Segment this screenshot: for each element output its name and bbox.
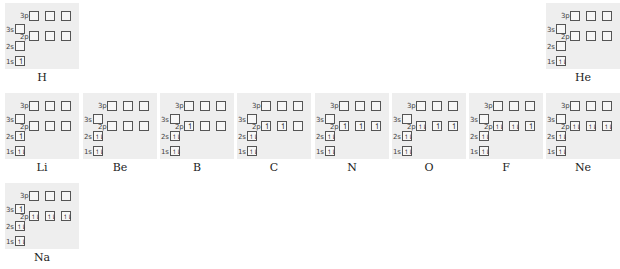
orbital-box-2s: ↿⇂	[15, 221, 25, 231]
orbital-panel: 3p3s2p↿↿2s↿⇂1s↿⇂	[237, 93, 311, 159]
orbital-box-2p: ↿⇂	[493, 121, 503, 131]
orbital-box-2s: ↿⇂	[325, 131, 335, 141]
paired-electrons-arrow-icon: ↿⇂	[249, 147, 257, 156]
orbital-box-3p	[200, 101, 210, 111]
orbital-box-2p: ↿⇂	[61, 211, 71, 221]
orbital-box-3p	[525, 101, 535, 111]
orbital-box-3p	[602, 101, 612, 111]
orbital-label-2s: 2s	[6, 43, 14, 51]
orbital-label-3p: 3p	[20, 12, 28, 20]
paired-electrons-arrow-icon: ↿⇂	[47, 212, 55, 221]
orbital-label-1s: 1s	[547, 58, 555, 66]
paired-electrons-arrow-icon: ↿⇂	[17, 147, 25, 156]
paired-electrons-arrow-icon: ↿⇂	[172, 147, 180, 156]
orbital-box-2p: ↿⇂	[45, 211, 55, 221]
element-symbol: He	[546, 71, 620, 84]
orbital-box-2p: ↿⇂	[509, 121, 519, 131]
orbital-label-3p: 3p	[252, 102, 260, 110]
orbital-box-2p: ↿⇂	[570, 121, 580, 131]
orbital-label-3s: 3s	[393, 116, 401, 124]
orbital-label-3s: 3s	[470, 116, 478, 124]
orbital-label-3p: 3p	[561, 102, 569, 110]
element-symbol: Na	[5, 251, 79, 264]
paired-electrons-arrow-icon: ↿⇂	[558, 57, 566, 66]
orbital-label-3p: 3p	[330, 102, 338, 110]
orbital-box-2p	[216, 121, 226, 131]
orbital-label-3s: 3s	[316, 116, 324, 124]
orbital-label-2p: 2p	[561, 33, 569, 41]
single-electron-arrow-icon: ↿	[280, 122, 286, 131]
orbital-box-3p	[45, 11, 55, 21]
orbital-box-1s: ↿⇂	[479, 146, 489, 156]
orbital-box-3p	[339, 101, 349, 111]
orbital-box-3p	[45, 101, 55, 111]
orbital-box-3p	[355, 101, 365, 111]
orbital-box-3p	[29, 11, 39, 21]
orbital-box-2p	[586, 31, 596, 41]
orbital-box-3p	[29, 191, 39, 201]
orbital-box-2p: ↿⇂	[29, 211, 39, 221]
orbital-label-2s: 2s	[84, 133, 92, 141]
element-symbol: F	[469, 161, 543, 174]
single-electron-arrow-icon: ↿	[528, 122, 534, 131]
orbital-label-1s: 1s	[84, 148, 92, 156]
orbital-panel: 3p3s2p2s1s↿⇂	[546, 3, 620, 69]
orbital-box-2s: ↿⇂	[402, 131, 412, 141]
orbital-label-2s: 2s	[6, 133, 14, 141]
paired-electrons-arrow-icon: ↿⇂	[558, 132, 566, 141]
orbital-label-1s: 1s	[6, 238, 14, 246]
paired-electrons-arrow-icon: ↿⇂	[95, 132, 103, 141]
orbital-box-3p	[416, 101, 426, 111]
element-symbol: H	[5, 71, 79, 84]
orbital-box-1s: ↿⇂	[402, 146, 412, 156]
paired-electrons-arrow-icon: ↿⇂	[558, 147, 566, 156]
orbital-box-1s: ↿⇂	[247, 146, 257, 156]
orbital-box-2s: ↿⇂	[247, 131, 257, 141]
orbital-label-2p: 2p	[98, 123, 106, 131]
orbital-label-2p: 2p	[407, 123, 415, 131]
paired-electrons-arrow-icon: ↿⇂	[31, 212, 39, 221]
orbital-box-2p	[107, 121, 117, 131]
orbital-label-3p: 3p	[175, 102, 183, 110]
element-symbol: B	[160, 161, 234, 174]
paired-electrons-arrow-icon: ↿⇂	[588, 122, 596, 131]
orbital-box-3p	[139, 101, 149, 111]
element-symbol: Be	[83, 161, 157, 174]
orbital-label-1s: 1s	[6, 148, 14, 156]
paired-electrons-arrow-icon: ↿⇂	[495, 122, 503, 131]
orbital-box-3p	[432, 101, 442, 111]
orbital-box-3p	[61, 191, 71, 201]
orbital-box-2p: ↿	[261, 121, 271, 131]
orbital-box-3p	[586, 101, 596, 111]
orbital-box-1s: ↿⇂	[556, 56, 566, 66]
orbital-box-2p	[570, 31, 580, 41]
orbital-box-2s: ↿⇂	[479, 131, 489, 141]
element-symbol: Li	[5, 161, 79, 174]
orbital-box-2p	[200, 121, 210, 131]
orbital-box-2p: ↿⇂	[586, 121, 596, 131]
orbital-box-3p	[293, 101, 303, 111]
single-electron-arrow-icon: ↿	[358, 122, 364, 131]
single-electron-arrow-icon: ↿	[264, 122, 270, 131]
single-electron-arrow-icon: ↿	[342, 122, 348, 131]
paired-electrons-arrow-icon: ↿⇂	[249, 132, 257, 141]
orbital-label-2p: 2p	[252, 123, 260, 131]
single-electron-arrow-icon: ↿	[451, 122, 457, 131]
paired-electrons-arrow-icon: ↿⇂	[95, 147, 103, 156]
orbital-box-2p: ↿⇂	[416, 121, 426, 131]
orbital-label-3p: 3p	[484, 102, 492, 110]
orbital-box-1s: ↿⇂	[15, 146, 25, 156]
orbital-label-1s: 1s	[393, 148, 401, 156]
orbital-label-3p: 3p	[20, 102, 28, 110]
orbital-panel: 3p3s2p↿⇂↿⇂↿2s↿⇂1s↿⇂	[469, 93, 543, 159]
orbital-box-2p: ↿⇂	[602, 121, 612, 131]
paired-electrons-arrow-icon: ↿⇂	[404, 147, 412, 156]
orbital-label-1s: 1s	[6, 58, 14, 66]
orbital-box-3p	[61, 101, 71, 111]
orbital-box-2p: ↿	[371, 121, 381, 131]
paired-electrons-arrow-icon: ↿⇂	[17, 237, 25, 246]
orbital-box-2p	[293, 121, 303, 131]
paired-electrons-arrow-icon: ↿⇂	[418, 122, 426, 131]
paired-electrons-arrow-icon: ↿⇂	[604, 122, 612, 131]
orbital-box-2p	[139, 121, 149, 131]
